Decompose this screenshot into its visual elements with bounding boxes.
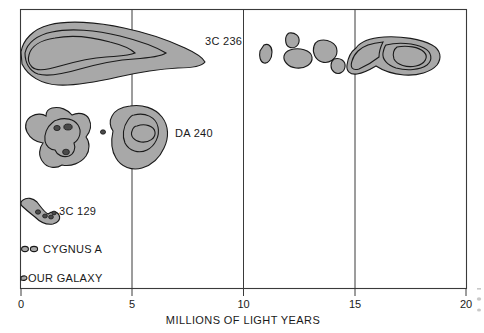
object-da-240: [26, 105, 168, 168]
x-axis-title: MILLIONS OF LIGHT YEARS: [166, 314, 320, 326]
xtick-label-15: 15: [349, 298, 361, 310]
label-our-galaxy: OUR GALAXY: [28, 272, 103, 284]
da-240-left-knot-3: [63, 149, 70, 155]
3c-236-outer-contour: [21, 22, 205, 85]
da-240-left-knot-1: [54, 125, 60, 130]
our-galaxy-sliver: [21, 276, 27, 280]
xtick-label-20: 20: [460, 298, 472, 310]
cygnus-a-lobe-west: [22, 246, 29, 251]
object-3c-129: [21, 198, 60, 224]
xtick-label-10: 10: [237, 298, 249, 310]
da-240-right-lobe: [110, 105, 167, 168]
x-axis-ticks: [21, 289, 466, 297]
3c-129-knot-2: [43, 214, 48, 218]
xtick-label-5: 5: [129, 298, 135, 310]
cluster-blob-1: [260, 44, 272, 63]
3c-129-knot-4: [52, 211, 56, 215]
da-240-left-lobe: [26, 107, 91, 167]
label-cygnus-a: CYGNUS A: [43, 243, 103, 255]
object-our-galaxy: [21, 276, 27, 280]
page-edge-artifacts: [477, 288, 481, 312]
cygnus-a-lobe-east: [30, 246, 37, 251]
da-240-left-knot-2: [64, 124, 72, 130]
cluster-blob-2: [286, 33, 300, 48]
object-3c-236: [21, 22, 205, 85]
object-right-cluster: [260, 33, 345, 74]
label-3c-129: 3C 129: [59, 205, 96, 217]
cluster-blob-3: [284, 49, 312, 68]
3c-129-knot-3: [49, 215, 54, 219]
da-240-core: [100, 130, 105, 134]
radio-galaxy-size-diagram: 3C 236 DA 240 3C 129: [0, 0, 484, 333]
object-right-large-lobe: [347, 37, 440, 75]
cluster-blob-5: [331, 58, 345, 73]
object-cygnus-a: [22, 246, 38, 251]
xtick-label-0: 0: [18, 298, 24, 310]
label-3c-236: 3C 236: [205, 35, 242, 47]
label-da-240: DA 240: [175, 127, 213, 139]
3c-129-knot-1: [35, 210, 40, 214]
